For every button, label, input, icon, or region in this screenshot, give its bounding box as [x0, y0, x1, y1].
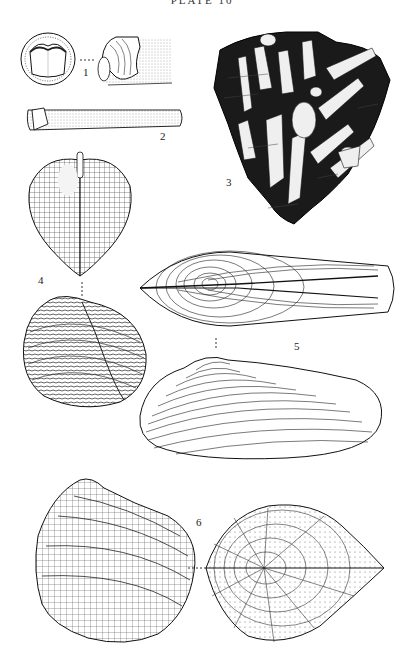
figure-4-label: 4 [38, 274, 44, 286]
figure-6-label: 6 [196, 516, 202, 528]
figure-5-connector [214, 338, 218, 350]
figure-2-label: 2 [160, 130, 166, 142]
figure-6-dorsal-view [204, 496, 388, 646]
figure-4-lateral-view [20, 292, 150, 412]
figure-1-lateral-view [94, 33, 174, 87]
figure-3-label: 3 [226, 176, 232, 188]
figure-4-dorsal-view [24, 152, 136, 278]
figure-1-label: 1 [83, 66, 89, 78]
figure-6-lateral-view [18, 476, 194, 644]
figure-5-dorsal-view [138, 246, 396, 342]
figure-1-end-view [18, 30, 78, 88]
plate-header: PLATE 10 [0, 0, 404, 6]
figure-5-lateral-view [136, 350, 388, 460]
figure-3-rock-slab [208, 28, 394, 228]
